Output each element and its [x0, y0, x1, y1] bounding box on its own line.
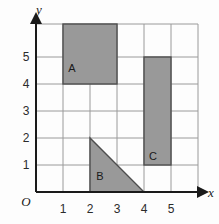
x-tick-label-3: 3: [114, 202, 121, 216]
y-tick-label-5: 5: [23, 50, 30, 64]
coordinate-plot-svg: y x O 1 2 3 4 5 1 2 3 4 5 A B C: [0, 0, 219, 224]
y-tick-label-4: 4: [23, 77, 30, 91]
y-tick-label-1: 1: [23, 158, 30, 172]
coordinate-figure: y x O 1 2 3 4 5 1 2 3 4 5 A B C: [0, 0, 219, 224]
shape-c-rectangle: [144, 57, 171, 165]
shape-a-rectangle: [63, 24, 117, 84]
x-tick-label-1: 1: [60, 202, 67, 216]
x-tick-label-4: 4: [141, 202, 148, 216]
y-axis-label: y: [34, 2, 42, 17]
origin-label: O: [21, 194, 31, 209]
shape-a-label: A: [68, 62, 76, 74]
x-axis-label: x: [207, 185, 214, 200]
x-tick-label-5: 5: [168, 202, 175, 216]
y-tick-label-3: 3: [23, 104, 30, 118]
x-tick-label-2: 2: [87, 202, 94, 216]
shape-c-label: C: [149, 150, 157, 162]
y-tick-label-2: 2: [23, 131, 30, 145]
shape-b-label: B: [96, 170, 103, 182]
